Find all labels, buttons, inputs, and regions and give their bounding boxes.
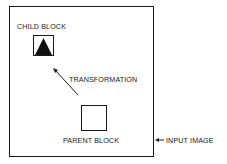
input-image-arrowhead-icon [155, 138, 159, 142]
transformation-label: TRANSFORMATION [69, 75, 137, 84]
child-block-label: CHILD BLOCK [17, 22, 66, 31]
parent-block [82, 106, 107, 131]
input-image-label: INPUT IMAGE [166, 136, 214, 145]
parent-block-label: PARENT BLOCK [63, 136, 119, 145]
